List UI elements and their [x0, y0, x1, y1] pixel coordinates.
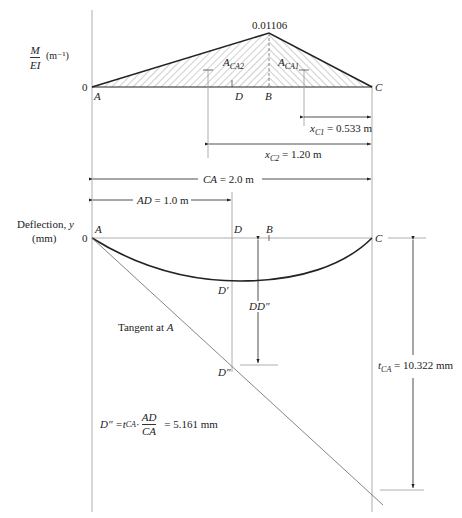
formula: D″ = tCA · AD CA = 5.161 mm [100, 412, 218, 437]
diagram-canvas [0, 0, 462, 518]
point-b-bottom: B [266, 224, 273, 235]
ad-label: AD = 1.0 m [137, 195, 188, 206]
point-d-bottom: D [234, 224, 242, 235]
formula-num: AD [142, 412, 157, 423]
area-aca2-label: ACA2 [223, 57, 244, 71]
tangent-line [92, 238, 383, 505]
dd-label: DD″ [249, 301, 269, 312]
ylabel-num: M [31, 44, 40, 56]
tangent-label: Tangent at A [118, 322, 173, 333]
xc1-label: xC1 = 0.533 m [310, 123, 372, 137]
formula-fraction: AD CA [142, 412, 157, 437]
xc2-label: xC2 = 1.20 m [265, 149, 322, 163]
formula-lhs: D″ = [100, 419, 123, 430]
point-b-top: B [265, 91, 272, 102]
peak-value: 0.01106 [252, 20, 287, 31]
deflection-zero: 0 [82, 233, 88, 244]
point-c-bottom: C [375, 233, 382, 244]
moment-unit: (m⁻¹) [46, 51, 69, 61]
point-a-top: A [94, 91, 101, 102]
ca-label: CA = 2.0 m [203, 174, 254, 185]
point-a-bottom: A [95, 224, 102, 235]
ylabel-den: EI [30, 59, 40, 71]
formula-den: CA [142, 426, 156, 437]
formula-t-sub: CA [126, 421, 136, 429]
point-c-top: C [375, 82, 382, 93]
point-d-top: D [235, 91, 243, 102]
deflection-unit: (mm) [32, 233, 56, 244]
area-aca1-label: ACA1 [278, 57, 299, 71]
formula-dot: · [136, 419, 140, 430]
tca-label: tCA = 10.322 mm [378, 360, 453, 374]
deflection-axis-label: Deflection, y [17, 219, 74, 230]
moment-axis-label: M EI [30, 44, 40, 71]
formula-rhs: = 5.161 mm [164, 419, 218, 430]
point-d-dprime: D″ [218, 367, 231, 378]
moment-zero: 0 [82, 82, 88, 93]
point-d-prime: D′ [218, 285, 228, 296]
